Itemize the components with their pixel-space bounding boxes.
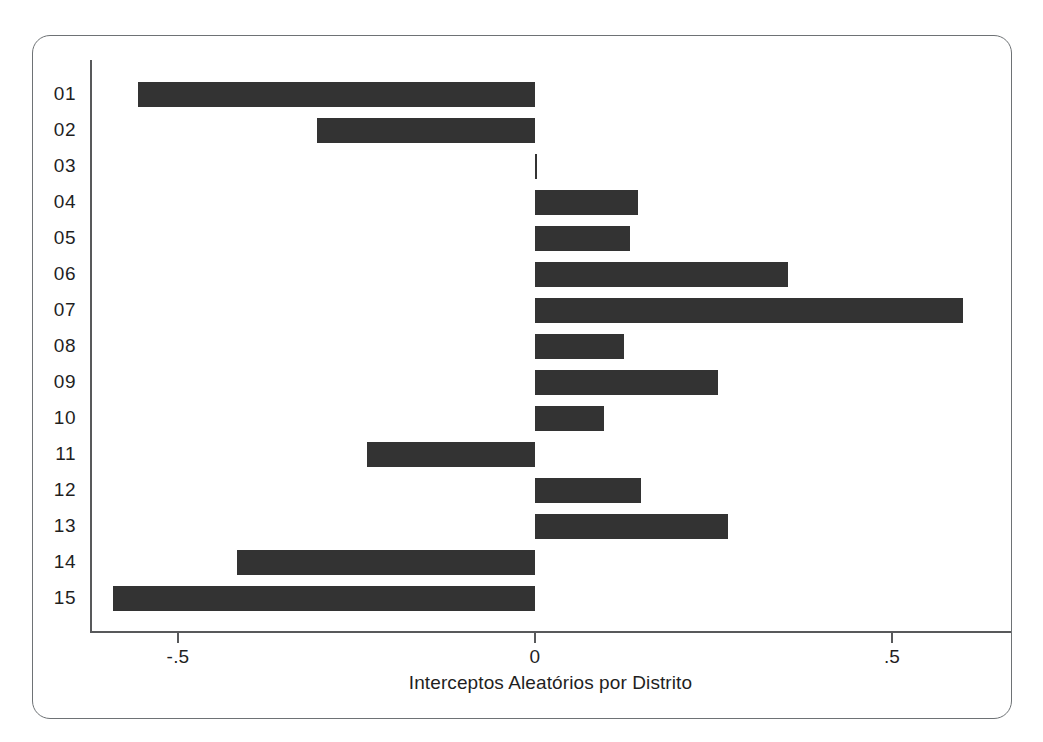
x-tick-mark	[534, 632, 536, 643]
bar	[535, 154, 537, 179]
x-axis-line	[90, 631, 1011, 633]
y-tick-label: 07	[54, 299, 76, 321]
chart-figure: -.50.5 010203040506070809101112131415 In…	[0, 0, 1043, 742]
y-tick-label: 06	[54, 263, 76, 285]
bar	[535, 514, 728, 539]
bar	[535, 478, 641, 503]
bar	[535, 406, 604, 431]
plot-area: -.50.5 010203040506070809101112131415	[90, 60, 1011, 632]
bar	[535, 334, 624, 359]
y-tick-label: 15	[54, 587, 76, 609]
y-tick-label: 12	[54, 479, 76, 501]
bar	[535, 262, 788, 287]
y-tick-label: 08	[54, 335, 76, 357]
y-tick-label: 04	[54, 191, 76, 213]
y-tick-label: 10	[54, 407, 76, 429]
x-axis-title: Interceptos Aleatórios por Distrito	[90, 672, 1011, 694]
y-tick-label: 05	[54, 227, 76, 249]
bar	[535, 190, 638, 215]
x-tick-mark	[891, 632, 893, 643]
y-tick-label: 11	[55, 443, 76, 465]
x-tick-mark	[177, 632, 179, 643]
bar	[237, 550, 535, 575]
bar	[535, 370, 718, 395]
y-tick-label: 03	[54, 155, 76, 177]
bar	[138, 82, 535, 107]
bar	[535, 298, 963, 323]
bar	[317, 118, 535, 143]
y-axis-line	[90, 60, 92, 632]
bar	[535, 226, 630, 251]
y-tick-label: 01	[54, 83, 76, 105]
y-tick-label: 14	[54, 551, 76, 573]
y-tick-label: 02	[54, 119, 76, 141]
x-tick-label: .5	[884, 646, 900, 668]
y-tick-label: 09	[54, 371, 76, 393]
x-tick-label: -.5	[167, 646, 190, 668]
y-tick-label: 13	[54, 515, 76, 537]
bar	[367, 442, 535, 467]
bar	[113, 586, 535, 611]
x-tick-label: 0	[530, 646, 541, 668]
